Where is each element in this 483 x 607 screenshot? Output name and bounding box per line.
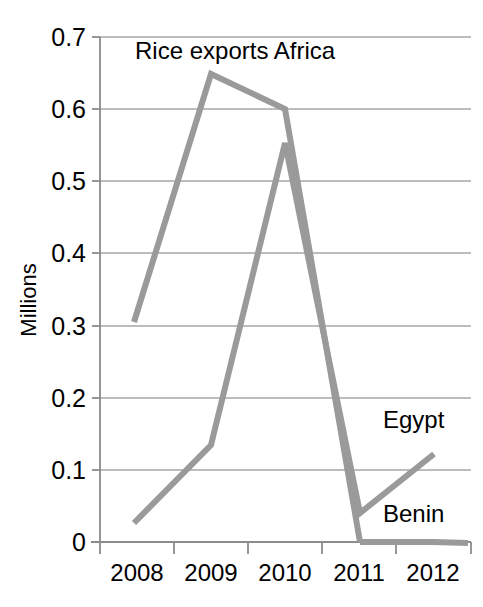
series-annotations: Rice exports Africa Egypt Benin	[135, 37, 445, 527]
chart-container: 0.7 0.6 0.5 0.4 0.3 0.2 0.1 0 2008 2009 …	[0, 0, 483, 607]
y-tick-label-0.4: 0.4	[51, 239, 86, 267]
x-tick-label-2009: 2009	[184, 559, 237, 586]
x-tick-label-2010: 2010	[258, 559, 311, 586]
y-axis-title: Millions	[16, 263, 41, 336]
series-line-egypt	[134, 143, 434, 523]
x-axis-tick-labels: 2008 2009 2010 2011 2012	[110, 559, 459, 586]
y-axis-ticks	[92, 37, 100, 542]
annotation-rice-exports-africa: Rice exports Africa	[135, 37, 336, 64]
y-tick-label-0.5: 0.5	[51, 167, 86, 195]
y-tick-label-0.2: 0.2	[51, 384, 86, 412]
series-lines	[134, 74, 468, 543]
x-tick-label-2011: 2011	[333, 559, 385, 586]
y-tick-label-0.6: 0.6	[51, 95, 86, 123]
series-line-benin	[360, 542, 468, 543]
y-tick-label-0.3: 0.3	[51, 312, 86, 340]
y-tick-label-0.7: 0.7	[51, 23, 86, 51]
annotation-benin: Benin	[383, 500, 444, 527]
y-tick-label-0.1: 0.1	[51, 456, 86, 484]
y-tick-label-0: 0	[72, 528, 86, 556]
y-axis-tick-labels: 0.7 0.6 0.5 0.4 0.3 0.2 0.1 0	[51, 23, 86, 556]
line-chart: 0.7 0.6 0.5 0.4 0.3 0.2 0.1 0 2008 2009 …	[0, 0, 483, 607]
x-tick-label-2008: 2008	[110, 559, 163, 586]
annotation-egypt: Egypt	[383, 406, 445, 433]
x-tick-label-2012: 2012	[406, 559, 459, 586]
